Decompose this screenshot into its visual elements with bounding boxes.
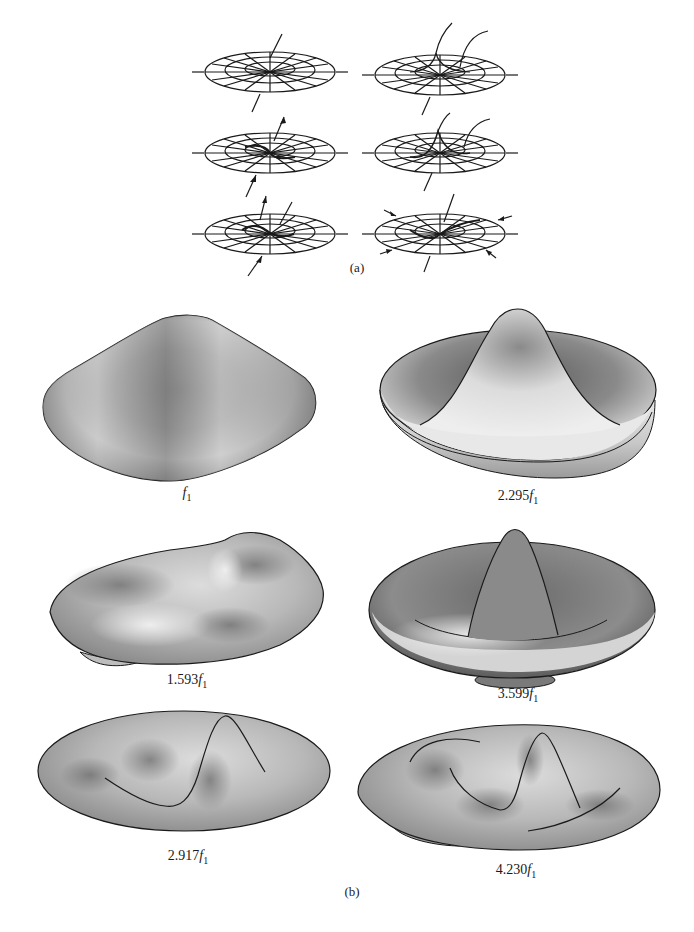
- part-b-surfaces: [0, 0, 694, 932]
- caption-subscript: 1: [533, 495, 538, 506]
- caption-3599f1: 3.599f1: [498, 686, 538, 704]
- mode-surface-f1: [43, 315, 316, 481]
- part-b-label: (b): [344, 884, 359, 900]
- caption-2295f1: 2.295f1: [498, 488, 538, 506]
- caption-subscript: 1: [186, 492, 191, 503]
- mode-surface-3599f1: [369, 530, 655, 689]
- mode-surface-4230f1: [358, 725, 660, 850]
- caption-coefficient: 4.230: [496, 862, 528, 877]
- mode-surface-2295f1: [380, 309, 656, 478]
- caption-4230f1: 4.230f1: [496, 862, 536, 880]
- caption-coefficient: 3.599: [498, 686, 530, 701]
- caption-subscript: 1: [202, 679, 207, 690]
- mode-surface-1593f1: [50, 533, 323, 666]
- caption-subscript: 1: [203, 855, 208, 866]
- caption-coefficient: 1.593: [167, 672, 199, 687]
- caption-f1: f1: [183, 485, 192, 503]
- caption-2917f1: 2.917f1: [168, 848, 208, 866]
- caption-coefficient: 2.295: [498, 488, 530, 503]
- caption-1593f1: 1.593f1: [167, 672, 207, 690]
- caption-coefficient: 2.917: [168, 848, 200, 863]
- caption-subscript: 1: [531, 869, 536, 880]
- mode-surface-2917f1: [38, 711, 330, 831]
- caption-subscript: 1: [533, 693, 538, 704]
